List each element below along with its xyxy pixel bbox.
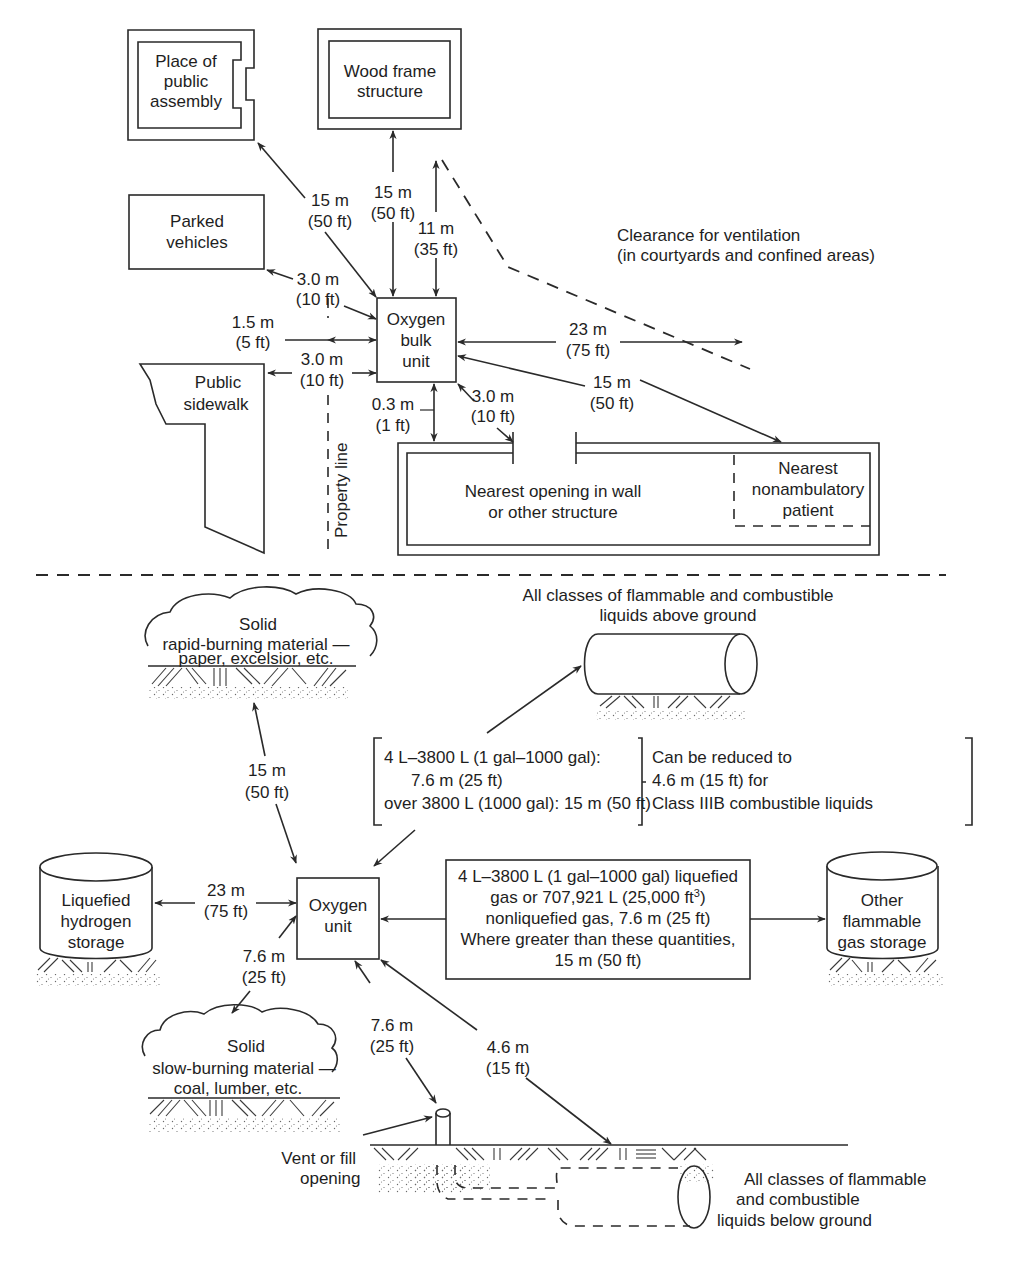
oxygen-clearance-diagram: Place of public assembly Wood frame stru… xyxy=(0,0,1019,1261)
dist-hydrogen-ft: (75 ft) xyxy=(204,902,248,921)
vent-fill-label-1: Vent or fill xyxy=(281,1149,356,1168)
vent-fill-label-2: opening xyxy=(300,1169,361,1188)
dist-nonambulatory-m: 15 m xyxy=(593,373,631,392)
ventilation-clearance-label-1: Clearance for ventilation xyxy=(617,226,800,245)
dist-ventilation-right-ft: (75 ft) xyxy=(566,341,610,360)
oxygen-unit-label-2: unit xyxy=(324,917,352,936)
dist-slow-burning-ft: (25 ft) xyxy=(242,968,286,987)
upper-site-plan: Place of public assembly Wood frame stru… xyxy=(128,29,879,556)
dist-ventilation-right-m: 23 m xyxy=(569,320,607,339)
flammable-gas-tank: Other flammable gas storage xyxy=(826,852,944,986)
dist-structure-wall-m: 0.3 m xyxy=(372,395,415,414)
dist-below-ground-ft: (15 ft) xyxy=(486,1059,530,1078)
gas-storage-label-2: flammable xyxy=(843,912,921,931)
liquids-above-label-1: All classes of flammable and combustible xyxy=(523,586,834,605)
nearest-structure-building: Nearest opening in wall or other structu… xyxy=(398,432,879,555)
liquid-rules-note: 4 L–3800 L (1 gal–1000 gal): 7.6 m (25 f… xyxy=(374,738,972,825)
dist-vent-m: 7.6 m xyxy=(371,1016,414,1035)
parked-vehicles-label-1: Parked xyxy=(170,212,224,231)
dist-vent-ft: (25 ft) xyxy=(370,1037,414,1056)
lower-site-plan: Solid rapid-burning material — paper, ex… xyxy=(34,586,972,1230)
oxygen-unit: Oxygen unit xyxy=(297,878,379,959)
nearest-opening-label-2: or other structure xyxy=(488,503,617,522)
property-line: Property line xyxy=(328,298,351,556)
dist-parked-vehicles-m: 3.0 m xyxy=(297,270,340,289)
property-line-label: Property line xyxy=(332,443,351,538)
liquid-rule-right-1: Can be reduced to xyxy=(652,748,792,767)
dist-ventilation-up-ft: (35 ft) xyxy=(414,240,458,259)
oxygen-bulk-unit-label-1: Oxygen xyxy=(387,310,446,329)
wood-frame-label-2: structure xyxy=(357,82,423,101)
oxygen-unit-label-1: Oxygen xyxy=(309,896,368,915)
above-ground-liquid-tank: All classes of flammable and combustible… xyxy=(523,586,834,720)
liquids-above-label-2: liquids above ground xyxy=(600,606,757,625)
dist-below-ground-m: 4.6 m xyxy=(487,1038,530,1057)
dist-property-line-m: 1.5 m xyxy=(232,313,275,332)
gas-rule-line-3: nonliquefied gas, 7.6 m (25 ft) xyxy=(486,909,711,928)
dist-opening-m: 3.0 m xyxy=(472,387,515,406)
public-assembly-building: Place of public assembly xyxy=(128,30,254,140)
liquids-below-label-2: and combustible xyxy=(736,1190,860,1209)
slow-burning-label-2: slow-burning material — xyxy=(152,1059,335,1078)
liquid-rule-right-3: Class IIIB combustible liquids xyxy=(652,794,873,813)
dist-public-assembly-m: 15 m xyxy=(311,191,349,210)
below-ground-liquid-tank: Vent or fill opening All classes of flam… xyxy=(281,1109,926,1230)
hydrogen-label-1: Liquefied xyxy=(61,891,130,910)
dist-ventilation-up-m: 11 m xyxy=(418,219,455,238)
dist-parked-vehicles-ft: (10 ft) xyxy=(296,290,340,309)
gas-rule-line-4: Where greater than these quantities, xyxy=(461,930,736,949)
gas-rule-line-1: 4 L–3800 L (1 gal–1000 gal) liquefied xyxy=(458,867,738,886)
rapid-burning-material-pile: Solid rapid-burning material — paper, ex… xyxy=(145,587,377,699)
dist-wood-frame-m: 15 m xyxy=(374,183,412,202)
nonambulatory-label-3: patient xyxy=(782,501,833,520)
dist-public-sidewalk-ft: (10 ft) xyxy=(300,371,344,390)
liquid-rule-left-3: over 3800 L (1000 gal): 15 m (50 ft) xyxy=(384,794,651,813)
liquid-rule-left-2: 7.6 m (25 ft) xyxy=(411,771,503,790)
dist-property-line-ft: (5 ft) xyxy=(236,333,271,352)
dist-rapid-burning-m: 15 m xyxy=(248,761,286,780)
public-assembly-label-2: public xyxy=(164,72,209,91)
gas-storage-label-3: gas storage xyxy=(838,933,927,952)
nearest-opening-label-1: Nearest opening in wall xyxy=(465,482,642,501)
dist-rapid-burning-ft: (50 ft) xyxy=(245,783,289,802)
gas-rule-line-2: gas or 707,921 L (25,000 ft3) xyxy=(490,887,705,907)
dist-slow-burning-m: 7.6 m xyxy=(243,947,286,966)
dist-wood-frame-ft: (50 ft) xyxy=(371,204,415,223)
dist-nonambulatory-ft: (50 ft) xyxy=(590,394,634,413)
public-assembly-label-1: Place of xyxy=(155,52,217,71)
public-assembly-label-3: assembly xyxy=(150,92,222,111)
slow-burning-material-pile: Solid slow-burning material — coal, lumb… xyxy=(142,1005,340,1132)
oxygen-bulk-unit: Oxygen bulk unit xyxy=(377,298,456,382)
rapid-burning-label-3: paper, excelsior, etc. xyxy=(179,649,334,668)
nonambulatory-label-1: Nearest xyxy=(778,459,838,478)
gas-storage-label-1: Other xyxy=(861,891,904,910)
dist-public-assembly-ft: (50 ft) xyxy=(308,212,352,231)
ventilation-clearance-label-2: (in courtyards and confined areas) xyxy=(617,246,875,265)
gas-rule-line-5: 15 m (50 ft) xyxy=(555,951,642,970)
dist-structure-wall-ft: (1 ft) xyxy=(376,416,411,435)
wood-frame-building: Wood frame structure xyxy=(318,29,461,129)
dist-public-sidewalk-m: 3.0 m xyxy=(301,350,344,369)
hydrogen-label-2: hydrogen xyxy=(61,912,132,931)
liquid-rule-right-2: 4.6 m (15 ft) for xyxy=(652,771,769,790)
liquid-rule-left-1: 4 L–3800 L (1 gal–1000 gal): xyxy=(384,748,601,767)
parked-vehicles-label-2: vehicles xyxy=(166,233,227,252)
oxygen-bulk-unit-label-3: unit xyxy=(402,352,430,371)
oxygen-bulk-unit-label-2: bulk xyxy=(400,331,432,350)
gas-rules-note: 4 L–3800 L (1 gal–1000 gal) liquefied ga… xyxy=(446,860,750,979)
nonambulatory-label-2: nonambulatory xyxy=(752,480,865,499)
liquefied-hydrogen-tank: Liquefied hydrogen storage xyxy=(34,853,160,986)
slow-burning-label-3: coal, lumber, etc. xyxy=(174,1079,303,1098)
dist-opening-ft: (10 ft) xyxy=(471,407,515,426)
dist-hydrogen-m: 23 m xyxy=(207,881,245,900)
public-sidewalk-label-1: Public xyxy=(195,373,242,392)
hydrogen-label-3: storage xyxy=(68,933,125,952)
wood-frame-label-1: Wood frame xyxy=(344,62,436,81)
liquids-below-label-3: liquids below ground xyxy=(717,1211,872,1230)
liquids-below-label-1: All classes of flammable xyxy=(744,1170,926,1189)
public-sidewalk-label-2: sidewalk xyxy=(183,395,249,414)
parked-vehicles-area: Parked vehicles xyxy=(129,195,264,269)
slow-burning-label-1: Solid xyxy=(227,1037,265,1056)
public-sidewalk-area: Public sidewalk xyxy=(140,364,264,553)
rapid-burning-label-1: Solid xyxy=(239,615,277,634)
